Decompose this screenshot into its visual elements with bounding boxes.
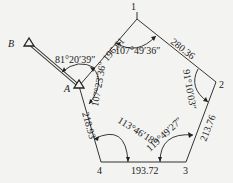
distance-2-3: 213.76 <box>198 113 218 143</box>
label-3: 3 <box>183 165 188 176</box>
label-A: A <box>63 83 71 94</box>
label-4: 4 <box>97 165 102 176</box>
distance-4-A: 218.93 <box>80 111 98 140</box>
label-B: B <box>8 38 14 49</box>
arc-4 <box>94 134 128 162</box>
label-2: 2 <box>219 79 224 90</box>
arc-BA1 <box>62 64 95 72</box>
distance-1-2: 280.36 <box>169 36 197 62</box>
angle-BA1: 81°20′39″ <box>55 54 95 65</box>
traverse-diagram: B A 1 2 3 4 196.61 280.36 213.76 193.72 … <box>0 0 233 183</box>
distance-3-4: 193.72 <box>131 165 159 176</box>
angle-1: 107°49′36″ <box>115 45 160 56</box>
angle-2: 91°10′03″ <box>181 68 199 110</box>
triangle-B-icon <box>24 38 34 46</box>
label-1: 1 <box>131 1 136 12</box>
angle-4: 113°46′18″ <box>116 114 160 147</box>
